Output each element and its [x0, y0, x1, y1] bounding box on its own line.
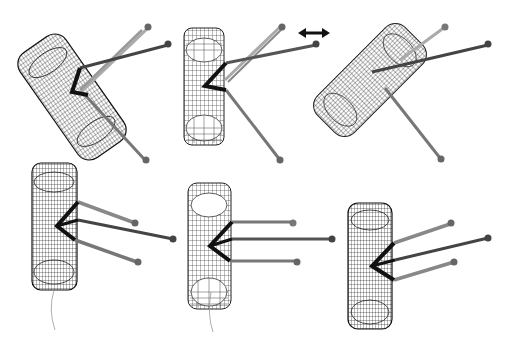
panel-top-left: [12, 24, 171, 166]
joint-icon: [438, 156, 445, 163]
joint-icon: [294, 259, 301, 266]
joint-icon: [448, 220, 455, 227]
panel-top-center: [184, 24, 320, 164]
joint-icon: [485, 41, 492, 48]
cable-line: [51, 290, 55, 330]
joint-icon: [442, 24, 449, 31]
joint-icon: [290, 220, 297, 227]
panel-bottom-center: [188, 183, 336, 332]
joint-icon: [165, 41, 172, 48]
panel-bottom-left: [32, 163, 177, 330]
joint-icon: [451, 259, 458, 266]
joint-icon: [145, 24, 152, 31]
joint-icon: [313, 41, 320, 48]
double-arrow-icon: [298, 28, 330, 38]
joint-icon: [132, 220, 139, 227]
joint-icon: [170, 236, 177, 243]
joint-icon: [485, 235, 492, 242]
panel-top-right: [308, 18, 492, 163]
joint-icon: [277, 157, 284, 164]
joint-icon: [279, 24, 286, 31]
suspension-diagram: [0, 0, 517, 349]
joint-icon: [329, 236, 336, 243]
panel-bottom-right: [348, 203, 492, 329]
tire-wireframe: [12, 29, 131, 166]
joint-icon: [143, 157, 150, 164]
joint-icon: [135, 259, 142, 266]
